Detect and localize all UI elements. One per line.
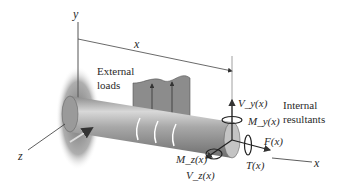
external-loads-label-line2: loads — [97, 80, 120, 91]
vz-label: V_z(x) — [186, 170, 215, 181]
external-loads-label-line1: External — [97, 66, 134, 77]
my-label: M_y(x) — [248, 116, 280, 127]
z-axis-label: z — [18, 150, 23, 162]
tx-label: T(x) — [246, 160, 264, 171]
dimension-label: x — [134, 38, 139, 50]
internal-resultants-label-line2: resultants — [283, 114, 325, 125]
mz-label: M_z(x) — [176, 154, 207, 165]
fx-label: F(x) — [264, 136, 283, 147]
x-axis — [272, 158, 312, 162]
y-axis-label: y — [73, 8, 78, 20]
internal-resultants-label-line1: Internal — [283, 100, 317, 111]
diagram-graphics — [0, 0, 348, 191]
x-axis-label: x — [314, 157, 319, 169]
vy-label: V_y(x) — [238, 98, 267, 109]
beam-internal-resultants-diagram: y x z x External loads Internal resultan… — [0, 0, 348, 191]
